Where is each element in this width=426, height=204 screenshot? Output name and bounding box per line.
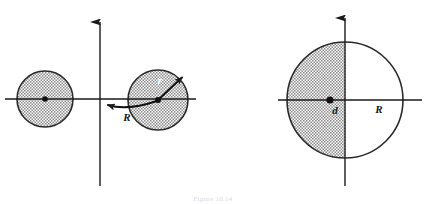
R-vector-label: R bbox=[122, 111, 130, 123]
figure-caption: Figure 10.14 bbox=[0, 195, 426, 203]
r-vector-label: r bbox=[158, 74, 163, 86]
R-label: R bbox=[374, 103, 382, 115]
d-label: d bbox=[332, 104, 338, 116]
physics-figure-diagram: R r d R bbox=[0, 0, 426, 204]
offset-center-dot bbox=[326, 96, 333, 103]
figure-container: R r d R Figure 10.14 bbox=[0, 0, 426, 204]
left-sphere-center-dot bbox=[42, 96, 48, 102]
left-panel: R r bbox=[5, 22, 196, 186]
right-panel: d R bbox=[278, 18, 422, 186]
